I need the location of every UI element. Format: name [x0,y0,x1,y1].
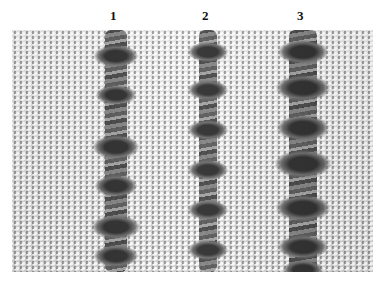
column-label-1: 1 [110,9,117,23]
cable-column-1 [86,30,146,272]
cable-column-3 [268,30,338,272]
cable-column-2 [178,30,238,272]
knit-fabric-photo [12,30,373,272]
column-label-2: 2 [202,9,209,23]
column-label-3: 3 [297,9,304,23]
